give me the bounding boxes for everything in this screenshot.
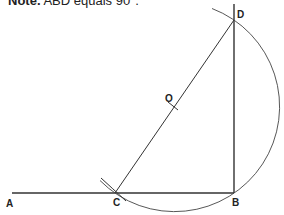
line-cd	[115, 20, 234, 193]
label-o: O	[165, 93, 173, 104]
label-c: C	[113, 197, 120, 208]
circle-arc	[100, 9, 280, 212]
label-a: A	[6, 198, 13, 209]
label-b: B	[232, 197, 239, 208]
geometry-construction: A B C D O	[0, 0, 284, 215]
label-d: D	[237, 9, 244, 20]
